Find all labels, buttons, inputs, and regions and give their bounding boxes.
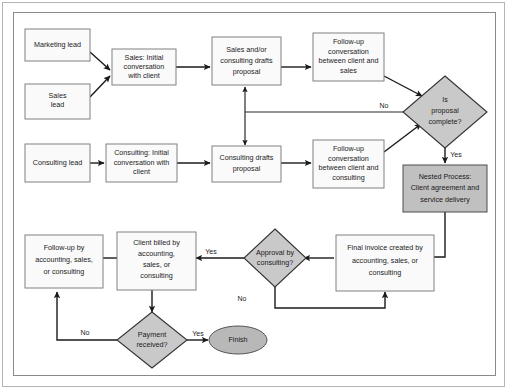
node-payment-received-line-0: Payment — [138, 330, 166, 339]
edge-label-payment-yes: Yes — [192, 330, 204, 337]
edge-labels: No Yes Yes No Yes No — [81, 102, 463, 337]
node-followup-consulting[interactable]: Follow-up conversation between client an… — [313, 140, 384, 188]
node-followup-consulting-line-1: conversation — [328, 154, 369, 163]
flowchart-svg: Marketing lead Sales lead Consulting lea… — [0, 0, 511, 390]
edge-label-proposal-no: No — [380, 102, 389, 109]
node-approval-by-consulting[interactable]: Approval by consulting? — [244, 229, 306, 287]
node-consulting-lead-line-0: Consulting lead — [33, 158, 83, 167]
node-final-invoice-line-2: consulting — [369, 268, 401, 277]
node-approval-line-0: Approval by — [256, 248, 294, 257]
node-sales-drafts-line-1: consulting drafts — [220, 56, 273, 65]
node-sales-initial-line-1: conversation — [124, 62, 165, 71]
node-followup-sales-line-0: Follow-up — [333, 37, 364, 46]
node-nested-process-line-1: Client agreement and — [411, 183, 480, 192]
edge-label-proposal-yes: Yes — [450, 151, 462, 158]
node-marketing-lead-line-0: Marketing lead — [34, 40, 81, 49]
node-final-invoice-line-1: accounting, sales, or — [352, 256, 419, 265]
node-followup-accounting-line-2: or consulting — [44, 267, 85, 276]
edge-label-approval-no: No — [238, 295, 247, 302]
node-followup-sales-line-2: between client and — [319, 56, 379, 65]
node-client-billed-line-2: sales, or — [143, 260, 171, 269]
node-is-proposal-complete[interactable]: Is proposal complete? — [403, 76, 487, 148]
node-sales-lead-line-1: lead — [51, 100, 65, 109]
node-consulting-initial-line-2: client — [133, 167, 150, 176]
node-followup-sales-line-3: sales — [340, 66, 357, 75]
node-consulting-initial-line-0: Consulting: Initial — [114, 148, 169, 157]
edge-marketing-to-sales-initial — [90, 52, 110, 70]
node-sales-drafts-proposal[interactable]: Sales and/or consulting drafts proposal — [212, 37, 281, 85]
node-followup-consulting-line-0: Follow-up — [333, 144, 364, 153]
node-client-billed-line-1: accounting, — [138, 249, 175, 258]
node-consulting-drafts-proposal[interactable]: Consulting drafts proposal — [212, 146, 281, 182]
edge-followup-sales-to-decision — [384, 76, 422, 96]
node-sales-initial-conversation[interactable]: Sales: Initial conversation with client — [112, 49, 176, 85]
node-proposal-complete-line-2: complete? — [428, 117, 461, 126]
node-proposal-complete-line-0: Is — [442, 95, 448, 104]
edge-label-approval-yes: Yes — [205, 248, 217, 255]
node-marketing-lead[interactable]: Marketing lead — [25, 29, 90, 61]
node-followup-accounting-line-0: Follow-up by — [44, 243, 85, 252]
edge-sales-lead-to-sales-initial — [90, 76, 110, 97]
node-consulting-drafts-line-0: Consulting drafts — [220, 153, 274, 162]
node-sales-initial-line-0: Sales: Initial — [125, 53, 164, 62]
node-sales-lead-line-0: Sales — [49, 91, 67, 100]
node-proposal-complete-line-1: proposal — [431, 106, 459, 115]
node-sales-drafts-line-2: proposal — [233, 67, 261, 76]
node-nested-process-line-0: Nested Process: — [419, 172, 472, 181]
edge-label-payment-no: No — [81, 329, 90, 336]
edge-followup-consulting-to-decision — [384, 124, 421, 152]
node-sales-initial-line-2: with client — [127, 71, 160, 80]
node-followup-sales[interactable]: Follow-up conversation between client an… — [313, 33, 384, 81]
node-followup-accounting[interactable]: Follow-up by accounting, sales, or consu… — [25, 235, 103, 288]
flowchart-canvas: Marketing lead Sales lead Consulting lea… — [0, 0, 511, 390]
node-sales-drafts-line-0: Sales and/or — [226, 45, 267, 54]
node-final-invoice-line-0: Final invoice created by — [347, 243, 423, 252]
node-followup-sales-line-1: conversation — [328, 47, 369, 56]
node-followup-consulting-line-2: between client and — [319, 163, 379, 172]
node-client-billed-line-3: consulting — [140, 271, 172, 280]
node-client-billed[interactable]: Client billed by accounting, sales, or c… — [117, 232, 196, 290]
node-final-invoice[interactable]: Final invoice created by accounting, sal… — [336, 235, 434, 291]
node-approval-line-1: consulting? — [257, 258, 293, 267]
node-consulting-initial-line-1: conversation with — [114, 158, 170, 167]
node-payment-received-line-1: received? — [136, 340, 167, 349]
node-nested-process-line-2: service delivery — [420, 195, 470, 204]
node-followup-accounting-line-1: accounting, sales, — [35, 255, 93, 264]
node-sales-lead[interactable]: Sales lead — [25, 84, 90, 119]
connectors — [57, 52, 445, 340]
node-followup-consulting-line-3: consulting — [332, 173, 364, 182]
node-client-billed-line-0: Client billed by — [133, 238, 180, 247]
node-payment-received[interactable]: Payment received? — [117, 312, 187, 368]
node-consulting-drafts-line-1: proposal — [233, 164, 261, 173]
node-consulting-initial-conversation[interactable]: Consulting: Initial conversation with cl… — [106, 144, 177, 182]
node-finish-label: Finish — [228, 335, 247, 344]
node-nested-process[interactable]: Nested Process: Client agreement and ser… — [403, 165, 487, 212]
node-finish[interactable]: Finish — [209, 326, 267, 354]
node-consulting-lead[interactable]: Consulting lead — [25, 144, 90, 182]
